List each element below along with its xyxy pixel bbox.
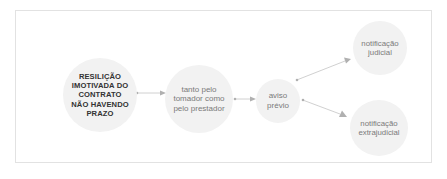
node-extrajudicial-line-1: notificação — [358, 119, 399, 128]
node-aviso-previo: aviso prévio — [256, 79, 300, 123]
arrow-parties-to-notice — [234, 97, 256, 102]
node-judicial-line-1: notificação — [361, 39, 398, 48]
node-parties-line-3: pelo prestador — [173, 104, 224, 114]
node-main-line-5: PRAZO — [71, 109, 129, 118]
node-notice-line-2: prévio — [267, 101, 289, 111]
node-notice-line-1: aviso — [267, 91, 289, 101]
node-main-line-4: NÃO HAVENDO — [71, 100, 129, 109]
node-resilicao-imotivada: RESILIÇÃO IMOTIVADA DO CONTRATO NÃO HAVE… — [63, 58, 137, 132]
arrow-notice-to-judicial — [296, 58, 351, 82]
arrow-notice-to-extrajudicial — [302, 99, 347, 117]
node-main-line-2: IMOTIVADA DO — [71, 81, 129, 90]
arrow-main-to-parties — [136, 91, 166, 96]
node-parties-line-1: tanto pelo — [173, 85, 224, 95]
node-judicial-line-2: judicial — [361, 48, 398, 57]
node-main-line-1: RESILIÇÃO — [71, 72, 129, 81]
node-notificacao-extrajudicial: notificação extrajudicial — [350, 100, 408, 156]
node-tomador-prestador: tanto pelo tomador como pelo prestador — [165, 65, 233, 133]
node-parties-line-2: tomador como — [173, 94, 224, 104]
node-notificacao-judicial: notificação judicial — [353, 21, 407, 75]
node-extrajudicial-line-2: extrajudicial — [358, 128, 399, 137]
node-main-line-3: CONTRATO — [71, 90, 129, 99]
